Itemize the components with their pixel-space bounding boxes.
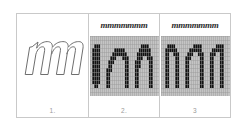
- panel-caption-3: 3: [160, 107, 230, 115]
- panel-caption-2: 2.: [89, 107, 159, 115]
- panel-caption-1: 1.: [17, 107, 88, 115]
- panel-vector-outline: 1.: [17, 14, 88, 117]
- raster-svg-unhinted: [90, 36, 159, 96]
- sample-label-2: mmmmmmm: [89, 20, 159, 30]
- raster-svg-hinted: [161, 36, 230, 96]
- glyph-outline-svg: [22, 29, 84, 85]
- raster-grid-hinted: [161, 36, 230, 96]
- panel-raster-unhinted: mmmmmmm 2.: [88, 14, 159, 117]
- figure-root: 1. mmmmmmm 2. mmmmmmm: [0, 0, 250, 134]
- glyph-outline-m: [17, 14, 88, 99]
- raster-grid-unhinted: [90, 36, 159, 96]
- panel-raster-hinted: mmmmmmm 3: [159, 14, 230, 117]
- figure-frame: 1. mmmmmmm 2. mmmmmmm: [16, 13, 231, 118]
- sample-label-3: mmmmmmm: [160, 20, 230, 30]
